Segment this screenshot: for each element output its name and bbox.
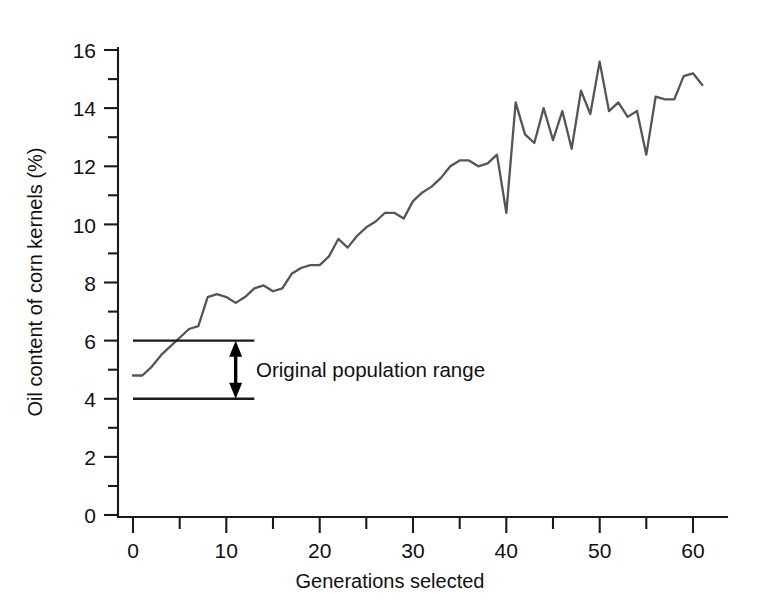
y-tick-label-12: 12	[73, 155, 96, 178]
y-ticks	[104, 50, 118, 515]
chart-figure: 0 2 4 6 8 10 12 14 16 0	[0, 0, 759, 610]
y-tick-labels: 0 2 4 6 8 10 12 14 16	[73, 39, 97, 527]
y-tick-label-10: 10	[73, 214, 96, 237]
y-tick-label-4: 4	[84, 388, 96, 411]
x-ticks	[133, 517, 693, 533]
original-population-range-annotation: Original population range	[133, 341, 485, 399]
x-tick-labels: 0 10 20 30 40 50 60	[127, 539, 705, 562]
y-tick-label-14: 14	[73, 97, 97, 120]
range-arrow-head-down	[229, 383, 242, 399]
y-axis-title: Oil content of corn kernels (%)	[24, 148, 46, 417]
y-tick-label-0: 0	[84, 504, 96, 527]
line-chart: 0 2 4 6 8 10 12 14 16 0	[0, 0, 759, 610]
x-axis-title: Generations selected	[295, 570, 484, 592]
y-tick-label-8: 8	[84, 272, 96, 295]
range-arrow-head-up	[229, 341, 242, 357]
x-tick-label-60: 60	[681, 539, 704, 562]
range-annotation-label: Original population range	[256, 358, 485, 381]
x-tick-label-50: 50	[588, 539, 611, 562]
y-tick-label-6: 6	[84, 330, 96, 353]
x-tick-label-0: 0	[127, 539, 139, 562]
data-series-line	[133, 62, 702, 376]
y-tick-label-2: 2	[84, 446, 96, 469]
y-tick-label-16: 16	[73, 39, 96, 62]
x-tick-label-40: 40	[495, 539, 518, 562]
x-tick-label-20: 20	[308, 539, 331, 562]
x-tick-label-30: 30	[401, 539, 424, 562]
x-tick-label-10: 10	[215, 539, 238, 562]
axis-group	[118, 48, 727, 517]
